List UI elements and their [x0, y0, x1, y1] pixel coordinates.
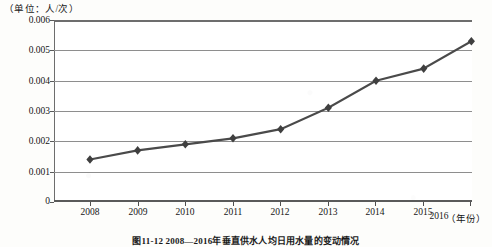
x-tick-label-2011: 2011	[211, 207, 255, 217]
y-tickmark-0	[50, 202, 54, 203]
y-tickmark-0.006	[50, 20, 54, 21]
y-tick-label-0.004: 0.004	[4, 76, 50, 86]
y-tick-label-0: 0	[4, 196, 50, 206]
y-tickmark-0.002	[50, 141, 54, 142]
x-tickmark-2011	[233, 202, 234, 206]
x-tickmark-2015	[423, 202, 424, 206]
x-tick-label-2012: 2012	[258, 207, 302, 217]
x-tick-label-2008: 2008	[68, 207, 112, 217]
y-tick-label-0.002: 0.002	[4, 136, 50, 146]
x-tick-label-2009: 2009	[116, 207, 160, 217]
y-tick-label-0.001: 0.001	[4, 167, 50, 177]
y-tickmark-0.001	[50, 172, 54, 173]
y-tick-label-0.003: 0.003	[4, 106, 50, 116]
y-tickmark-0.005	[50, 50, 54, 51]
y-tickmark-0.003	[50, 111, 54, 112]
x-tickmark-2014	[375, 202, 376, 206]
x-tick-label-2014: 2014	[353, 207, 397, 217]
x-axis-title: （年份）	[446, 211, 486, 225]
x-tick-label-2010: 2010	[163, 207, 207, 217]
y-tick-label-0.006: 0.006	[4, 15, 50, 25]
y-tick-label-0.005: 0.005	[4, 45, 50, 55]
figure-caption: 图11-12 2008—2016年垂直供水人均日用水量的变动情况	[0, 234, 492, 247]
x-tickmark-2013	[328, 202, 329, 206]
x-tick-label-2013: 2013	[306, 207, 350, 217]
x-tickmark-2009	[138, 202, 139, 206]
x-tickmark-2016	[470, 202, 471, 206]
x-tickmark-2010	[185, 202, 186, 206]
x-tickmark-2012	[280, 202, 281, 206]
x-tickmark-2008	[90, 202, 91, 206]
y-tickmark-0.004	[50, 81, 54, 82]
